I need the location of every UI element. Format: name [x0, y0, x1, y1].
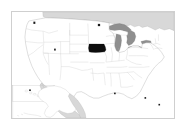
locator-map-figure: Map of the United States with Iowa highl…: [0, 0, 186, 134]
marker-northwest: [33, 22, 35, 24]
hawaii-kauai: [25, 90, 28, 92]
hawaii-molokai: [33, 93, 36, 95]
marker-south-central: [29, 89, 31, 91]
marker-atlantic: [158, 104, 160, 106]
marker-southeast: [114, 93, 116, 95]
map-alt-text: Map of the United States with Iowa highl…: [0, 0, 1, 1]
border-ne-states: [153, 43, 160, 44]
alaska-aleutian-islands: [17, 113, 41, 117]
lake-huron: [127, 31, 136, 46]
border-vt-nh: [155, 38, 156, 43]
map-frame: [11, 11, 175, 119]
hawaii-oahu: [29, 92, 32, 94]
marker-north-central: [98, 24, 100, 26]
marker-west: [54, 49, 56, 51]
us-map-svg: [12, 12, 174, 118]
marker-east: [145, 97, 147, 99]
highlighted-state-group: [88, 44, 105, 52]
state-iowa-highlight: [88, 44, 105, 52]
